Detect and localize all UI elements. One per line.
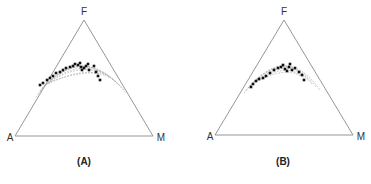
trend-field-b [244, 66, 320, 93]
panel-caption-a: (A) [77, 156, 91, 167]
data-point [301, 74, 304, 77]
data-point [79, 62, 82, 65]
data-point [74, 63, 77, 66]
data-point [250, 86, 253, 89]
data-point [59, 71, 62, 74]
data-point [42, 82, 45, 85]
data-point [99, 79, 102, 82]
data-point [286, 70, 289, 73]
data-point [69, 66, 72, 69]
data-point [39, 84, 42, 87]
data-point [262, 77, 265, 80]
data-point [303, 79, 306, 82]
data-point [95, 71, 98, 74]
vertex-label-f: F [281, 6, 287, 17]
vertex-label-m: M [157, 132, 165, 143]
panel-a: F A M (A) [7, 6, 166, 167]
data-point [97, 75, 100, 78]
vertex-label-a: A [207, 131, 214, 142]
data-point [294, 67, 297, 70]
data-point [88, 69, 91, 72]
data-point [49, 77, 52, 80]
data-point [65, 67, 68, 70]
data-point [252, 83, 255, 86]
data-point [298, 71, 301, 74]
ternary-triangle-b [215, 20, 353, 135]
panel-caption-b: (B) [276, 156, 290, 167]
panel-b: F A M (B) [207, 6, 366, 167]
data-point [282, 64, 285, 67]
data-point [273, 69, 276, 72]
vertex-label-m: M [357, 131, 365, 142]
data-point [62, 69, 65, 72]
data-point [277, 67, 280, 70]
data-point [80, 66, 83, 69]
data-point [265, 75, 268, 78]
data-point [258, 78, 261, 81]
data-point [87, 63, 90, 66]
data-point [52, 75, 55, 78]
ternary-triangle-a [15, 20, 153, 136]
data-point [93, 65, 96, 68]
ternary-figure: F A M (A) F A M (B) [0, 0, 371, 184]
vertex-label-a: A [7, 132, 14, 143]
data-point [46, 79, 49, 82]
data-point [255, 80, 258, 83]
data-point [269, 72, 272, 75]
vertex-label-f: F [81, 6, 87, 17]
data-point [55, 72, 58, 75]
data-point [288, 66, 291, 69]
data-point [289, 63, 292, 66]
data-point [291, 69, 294, 72]
